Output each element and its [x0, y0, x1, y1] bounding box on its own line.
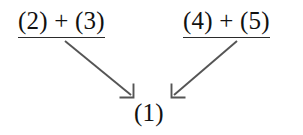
- diagram-canvas: (2) + (3) (4) + (5) (1): [0, 0, 303, 135]
- diagram-node-left-label: (2) + (3): [18, 7, 105, 34]
- diagram-node-right: (4) + (5): [183, 8, 270, 38]
- diagram-node-target-label: (1): [134, 99, 164, 126]
- arrow-left-shaft: [65, 41, 131, 95]
- diagram-node-target: (1): [134, 100, 164, 125]
- diagram-node-left: (2) + (3): [18, 8, 105, 38]
- diagram-node-right-label: (4) + (5): [183, 7, 270, 34]
- arrow-left-head-icon: [120, 84, 134, 98]
- arrow-right-head-icon: [172, 84, 186, 98]
- arrow-right-to-target: [172, 41, 238, 98]
- arrow-left-to-target: [65, 41, 134, 98]
- arrow-right-shaft: [174, 41, 237, 95]
